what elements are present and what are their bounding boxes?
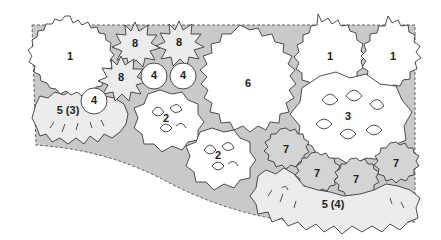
label-plant-4-top-left: 4: [151, 69, 158, 81]
label-plant-2-lower: 2: [215, 149, 221, 161]
label-plant-4-left: 4: [91, 94, 98, 106]
label-plant-3: 3: [345, 110, 351, 122]
label-plant-5-right: 5 (4): [322, 198, 345, 210]
label-plant-7-d: 7: [393, 157, 399, 169]
label-plant-1-far-right: 1: [390, 50, 396, 62]
label-plant-7-b: 7: [314, 167, 320, 179]
label-plant-8-lower: 8: [118, 71, 124, 83]
label-plant-5-left: 5 (3): [57, 104, 80, 116]
label-plant-1-left: 1: [67, 50, 73, 62]
label-plant-2-upper: 2: [163, 112, 169, 124]
label-plant-7-a: 7: [283, 143, 289, 155]
label-plant-8-top-right: 8: [176, 36, 182, 48]
planting-plan: 1 1 1 2 2 3 4 4 4 5 (3) 5 (4) 6 7 7 7 7 …: [0, 0, 441, 240]
label-plant-6: 6: [245, 77, 251, 89]
label-plant-8-top-left: 8: [132, 37, 138, 49]
label-plant-7-c: 7: [353, 173, 359, 185]
label-plant-1-middle-right: 1: [327, 50, 333, 62]
label-plant-4-top-right: 4: [180, 69, 187, 81]
